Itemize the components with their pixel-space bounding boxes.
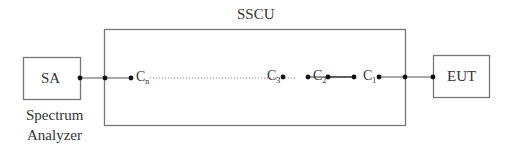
component-c3: C3: [267, 68, 280, 85]
c3-node: [281, 75, 286, 80]
component-cn: Cn: [136, 69, 149, 86]
sa-label: SA: [41, 70, 60, 87]
c1-right-node: [377, 75, 382, 80]
sscu-right-port-node: [403, 75, 408, 80]
sscu-left-port-node: [103, 76, 108, 81]
cn-node: [129, 76, 134, 81]
eut-port-node: [431, 75, 436, 80]
c2-left-node: [306, 75, 311, 80]
c1-left-node: [352, 75, 357, 80]
sa-port-node: [78, 76, 83, 81]
component-c2: C2: [313, 68, 326, 85]
sscu-label: SSCU: [237, 6, 275, 23]
sa-caption-line2: Analyzer: [27, 127, 82, 144]
component-c1: C1: [363, 68, 376, 85]
eut-label: EUT: [447, 68, 476, 85]
sa-caption-line1: Spectrum: [26, 107, 84, 124]
